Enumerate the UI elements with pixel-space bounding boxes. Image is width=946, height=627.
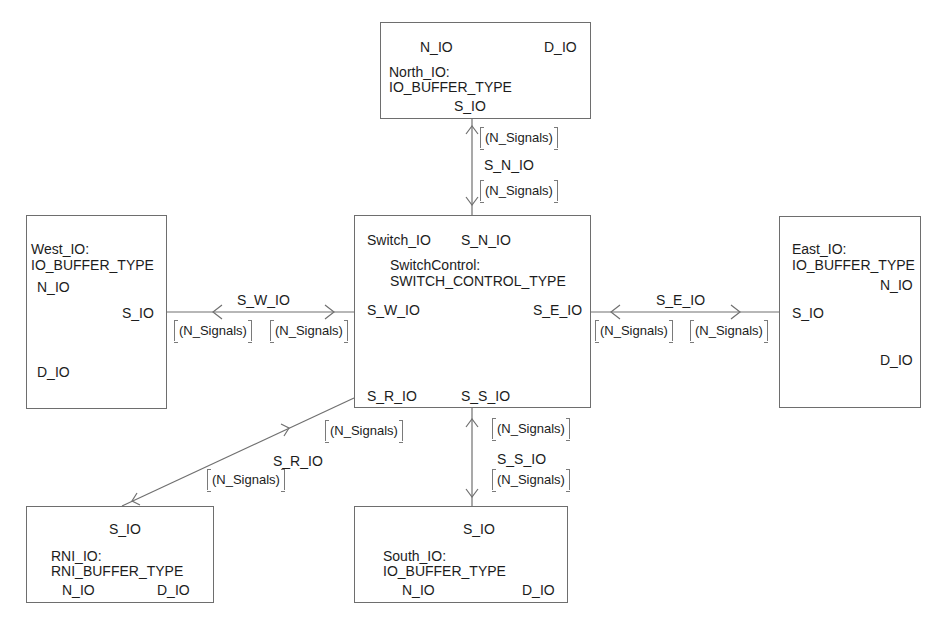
port-d-io: D_IO: [157, 582, 190, 598]
signal-label: (N_Signals): [595, 320, 673, 341]
port-s-io: S_IO: [792, 305, 824, 321]
port-d-io: D_IO: [522, 582, 555, 598]
port-s-e-io: S_E_IO: [533, 302, 582, 318]
signal-label: (N_Signals): [270, 320, 348, 341]
port-s-n-io: S_N_IO: [461, 232, 511, 248]
block-type: IO_BUFFER_TYPE: [792, 257, 915, 273]
port-s-io: S_IO: [122, 305, 154, 321]
block-type: IO_BUFFER_TYPE: [383, 563, 506, 579]
west-io-block[interactable]: West_IO: IO_BUFFER_TYPE N_IO S_IO D_IO: [26, 215, 167, 409]
port-n-io: N_IO: [402, 582, 435, 598]
port-d-io: D_IO: [544, 39, 577, 55]
block-instance-name: East_IO:: [792, 241, 846, 257]
block-instance-name: RNI_IO:: [51, 548, 102, 564]
port-d-io: D_IO: [880, 352, 913, 368]
connection-label: S_E_IO: [656, 292, 705, 308]
port-d-io: D_IO: [37, 364, 70, 380]
block-type: IO_BUFFER_TYPE: [389, 79, 512, 95]
rni-io-block[interactable]: S_IO RNI_IO: RNI_BUFFER_TYPE N_IO D_IO: [26, 506, 214, 603]
block-instance-name: South_IO:: [383, 548, 446, 564]
signal-label: (N_Signals): [207, 469, 285, 490]
block-type: IO_BUFFER_TYPE: [31, 257, 154, 273]
signal-label: (N_Signals): [480, 180, 558, 201]
signal-label: (N_Signals): [174, 320, 252, 341]
block-type: RNI_BUFFER_TYPE: [51, 563, 183, 579]
connection-label: S_S_IO: [497, 451, 546, 467]
port-n-io: N_IO: [420, 39, 453, 55]
block-instance-name: West_IO:: [31, 241, 89, 257]
port-s-w-io: S_W_IO: [367, 302, 420, 318]
signal-label: (N_Signals): [492, 469, 570, 490]
south-io-block[interactable]: S_IO South_IO: IO_BUFFER_TYPE N_IO D_IO: [354, 506, 568, 603]
connection-label: S_N_IO: [484, 157, 534, 173]
east-io-block[interactable]: East_IO: IO_BUFFER_TYPE N_IO S_IO D_IO: [779, 216, 921, 408]
switch-control-block[interactable]: Switch_IO S_N_IO SwitchControl: SWITCH_C…: [354, 215, 591, 408]
block-instance-name: North_IO:: [389, 64, 450, 80]
port-s-io: S_IO: [463, 521, 495, 537]
port-s-io: S_IO: [454, 98, 486, 114]
signal-label: (N_Signals): [690, 320, 768, 341]
signal-label: (N_Signals): [325, 420, 403, 441]
connection-label: S_R_IO: [273, 453, 323, 469]
port-s-r-io: S_R_IO: [367, 388, 417, 404]
port-n-io: N_IO: [37, 279, 70, 295]
signal-label: (N_Signals): [480, 127, 558, 148]
port-s-s-io: S_S_IO: [461, 388, 510, 404]
port-n-io: N_IO: [880, 277, 913, 293]
connection-label: S_W_IO: [237, 292, 290, 308]
port-n-io: N_IO: [62, 582, 95, 598]
block-instance-name: SwitchControl:: [390, 257, 480, 273]
signal-label: (N_Signals): [492, 418, 570, 439]
port-switch-io: Switch_IO: [367, 232, 431, 248]
north-io-block[interactable]: N_IO D_IO North_IO: IO_BUFFER_TYPE S_IO: [380, 22, 591, 119]
block-type: SWITCH_CONTROL_TYPE: [390, 273, 566, 289]
port-s-io: S_IO: [109, 521, 141, 537]
